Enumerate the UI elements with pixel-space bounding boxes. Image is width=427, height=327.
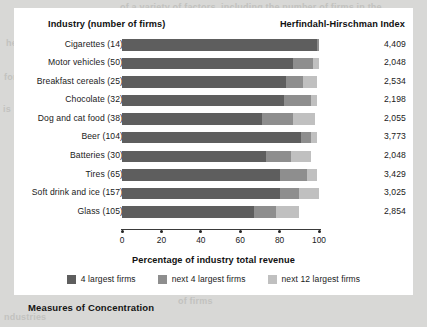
bar-row: Dog and cat food (38)2,055 <box>14 110 413 129</box>
x-axis-ticks: 020406080100 <box>14 230 413 256</box>
stacked-bar <box>122 76 319 88</box>
bar-segment-1 <box>122 188 280 200</box>
tick-label: 0 <box>110 235 134 245</box>
hhi-value: 2,048 <box>344 57 406 67</box>
column-header-hhi: Herfindahl-Hirschman Index <box>280 19 405 29</box>
industry-label: Dog and cat food (38) <box>0 113 123 123</box>
chart-legend: 4 largest firmsnext 4 largest firmsnext … <box>14 274 413 284</box>
x-tick: 0 <box>110 230 134 245</box>
tick-label: 100 <box>307 235 331 245</box>
stacked-bar <box>122 151 319 163</box>
bar-rows: Cigarettes (14)4,409Motor vehicles (50)2… <box>14 36 413 222</box>
hhi-value: 4,409 <box>344 39 406 49</box>
bar-segment-3 <box>313 58 319 70</box>
legend-item: next 4 largest firms <box>158 274 246 284</box>
industry-label: Cigarettes (14) <box>0 39 123 49</box>
bar-segment-2 <box>286 76 304 88</box>
stacked-bar <box>122 169 319 181</box>
bar-segment-1 <box>122 76 286 88</box>
bar-segment-1 <box>122 95 284 107</box>
x-axis-title: Percentage of industry total revenue <box>14 255 413 265</box>
tick-dot-icon <box>199 230 202 233</box>
industry-label: Soft drink and ice (157) <box>0 187 123 197</box>
stacked-bar <box>122 132 319 144</box>
bar-segment-2 <box>254 206 276 218</box>
stacked-bar <box>122 206 319 218</box>
bar-segment-1 <box>122 206 254 218</box>
industry-label: Breakfast cereals (25) <box>0 76 123 86</box>
bar-segment-1 <box>122 169 280 181</box>
bar-segment-1 <box>122 113 262 125</box>
x-tick: 20 <box>149 230 173 245</box>
bar-segment-3 <box>299 188 319 200</box>
hhi-value: 2,198 <box>344 94 406 104</box>
bar-segment-2 <box>284 95 312 107</box>
hhi-value: 2,055 <box>344 113 406 123</box>
tick-label: 20 <box>149 235 173 245</box>
hhi-value: 2,534 <box>344 76 406 86</box>
bar-segment-3 <box>291 151 311 163</box>
figure-caption: Measures of Concentration <box>28 302 154 313</box>
x-tick: 80 <box>268 230 292 245</box>
bar-segment-3 <box>311 95 317 107</box>
legend-label: 4 largest firms <box>81 274 136 284</box>
bar-segment-3 <box>276 206 300 218</box>
industry-label: Beer (104) <box>0 131 123 141</box>
industry-label: Tires (65) <box>0 169 123 179</box>
chart-panel: Industry (number of firms) Herfindahl-Hi… <box>14 8 413 295</box>
bar-segment-3 <box>311 132 317 144</box>
x-tick: 100 <box>307 230 331 245</box>
bar-segment-2 <box>301 132 311 144</box>
bar-segment-2 <box>293 58 313 70</box>
bar-row: Cigarettes (14)4,409 <box>14 36 413 55</box>
industry-label: Glass (105) <box>0 206 123 216</box>
bar-segment-1 <box>122 39 317 51</box>
stacked-bar <box>122 58 319 70</box>
hhi-value: 3,773 <box>344 131 406 141</box>
legend-swatch-seg2 <box>158 275 167 284</box>
bar-segment-2 <box>266 151 292 163</box>
legend-swatch-seg3 <box>268 275 277 284</box>
bleed-line: of firms <box>178 296 213 306</box>
bar-row: Soft drink and ice (157)3,025 <box>14 185 413 204</box>
tick-label: 40 <box>189 235 213 245</box>
hhi-value: 2,854 <box>344 206 406 216</box>
bar-row: Tires (65)3,429 <box>14 166 413 185</box>
column-header-industry: Industry (number of firms) <box>48 19 165 29</box>
stacked-bar <box>122 113 319 125</box>
tick-dot-icon <box>239 230 242 233</box>
stacked-bar <box>122 39 319 51</box>
legend-item: next 12 largest firms <box>268 274 361 284</box>
x-tick: 40 <box>189 230 213 245</box>
legend-label: next 12 largest firms <box>282 274 361 284</box>
legend-label: next 4 largest firms <box>172 274 246 284</box>
hhi-value: 2,048 <box>344 150 406 160</box>
bar-segment-1 <box>122 151 266 163</box>
bar-segment-1 <box>122 132 301 144</box>
bar-row: Glass (105)2,854 <box>14 203 413 222</box>
legend-item: 4 largest firms <box>67 274 136 284</box>
bar-segment-2 <box>262 113 294 125</box>
industry-label: Batteries (30) <box>0 150 123 160</box>
hhi-value: 3,429 <box>344 169 406 179</box>
bar-row: Chocolate (32)2,198 <box>14 92 413 111</box>
bar-segment-2 <box>317 39 319 51</box>
x-tick: 60 <box>228 230 252 245</box>
stacked-bar <box>122 95 319 107</box>
bar-segment-2 <box>280 188 300 200</box>
bar-segment-3 <box>293 113 315 125</box>
tick-label: 80 <box>268 235 292 245</box>
tick-dot-icon <box>121 230 124 233</box>
tick-label: 60 <box>228 235 252 245</box>
bar-segment-3 <box>303 76 317 88</box>
tick-dot-icon <box>160 230 163 233</box>
industry-label: Motor vehicles (50) <box>0 57 123 67</box>
tick-dot-icon <box>318 230 321 233</box>
bar-segment-2 <box>280 169 308 181</box>
industry-label: Chocolate (32) <box>0 94 123 104</box>
tick-dot-icon <box>278 230 281 233</box>
bleed-line: ndustries <box>4 312 46 322</box>
bar-row: Breakfast cereals (25)2,534 <box>14 73 413 92</box>
bar-row: Batteries (30)2,048 <box>14 148 413 167</box>
hhi-value: 3,025 <box>344 187 406 197</box>
